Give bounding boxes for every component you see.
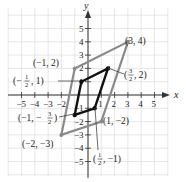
label-outer-3-4: (3, 4) bbox=[125, 36, 146, 47]
label-inner-neg-half-1: (− 1 2 , 1) bbox=[13, 73, 79, 88]
label-outer-1-neg2: (1, −2) bbox=[103, 116, 129, 127]
svg-text:(: ( bbox=[124, 70, 127, 81]
svg-text:(−: (− bbox=[13, 76, 22, 87]
label-outer-neg1-2: (−1, 2) bbox=[33, 58, 59, 69]
svg-text:, 1): , 1) bbox=[31, 76, 44, 87]
svg-text:−4: −4 bbox=[74, 143, 84, 153]
x-axis-arrow-icon bbox=[162, 92, 170, 98]
svg-text:, −1): , −1) bbox=[103, 154, 121, 165]
y-axis-arrow-icon bbox=[85, 10, 91, 18]
label-outer-neg2-neg3: (−2, −3) bbox=[22, 139, 53, 150]
svg-text:−3: −3 bbox=[74, 130, 84, 140]
svg-text:2: 2 bbox=[98, 159, 101, 166]
svg-text:(−1, −: (−1, − bbox=[18, 113, 41, 124]
svg-text:−4: −4 bbox=[30, 99, 40, 109]
svg-text:−5: −5 bbox=[74, 157, 84, 167]
svg-text:5: 5 bbox=[79, 24, 84, 34]
svg-text:): ) bbox=[54, 113, 57, 124]
svg-text:5: 5 bbox=[152, 99, 157, 109]
svg-text:3: 3 bbox=[48, 110, 51, 117]
svg-text:1: 1 bbox=[25, 73, 28, 80]
svg-text:3: 3 bbox=[125, 99, 130, 109]
label-inner-3half-2: ( 3 2 , 2) bbox=[108, 67, 147, 82]
svg-text:, 2): , 2) bbox=[134, 70, 147, 81]
svg-text:2: 2 bbox=[48, 118, 51, 125]
svg-text:−3: −3 bbox=[43, 99, 53, 109]
y-axis-label: y bbox=[83, 0, 89, 11]
svg-text:2: 2 bbox=[25, 81, 28, 88]
x-axis-label: x bbox=[173, 89, 179, 100]
svg-text:3: 3 bbox=[79, 50, 84, 60]
svg-text:3: 3 bbox=[129, 67, 132, 74]
svg-text:(: ( bbox=[93, 154, 96, 165]
svg-text:2: 2 bbox=[112, 99, 117, 109]
svg-text:−5: −5 bbox=[17, 99, 27, 109]
svg-text:4: 4 bbox=[138, 99, 143, 109]
svg-text:1: 1 bbox=[98, 151, 101, 158]
svg-text:4: 4 bbox=[79, 37, 84, 47]
axes: x y bbox=[8, 0, 179, 178]
svg-text:−2: −2 bbox=[56, 99, 66, 109]
coordinate-plane-figure: x y −5−4−3−21234554321−1−2−3−4−5 (3, 4) … bbox=[0, 0, 186, 182]
coordinate-plane: x y −5−4−3−21234554321−1−2−3−4−5 (3, 4) … bbox=[0, 0, 186, 182]
svg-text:−2: −2 bbox=[74, 117, 84, 127]
svg-text:1: 1 bbox=[98, 99, 103, 109]
svg-text:2: 2 bbox=[129, 75, 132, 82]
